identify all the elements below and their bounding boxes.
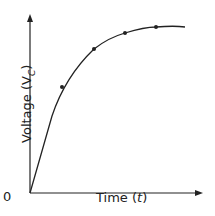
x-axis-label: Time (t) — [96, 190, 147, 205]
charging-curve — [30, 26, 185, 193]
data-point — [60, 85, 64, 89]
x-axis-arrow-icon — [195, 190, 203, 196]
data-point — [154, 25, 158, 29]
data-point — [92, 47, 96, 51]
y-axis-arrow-icon — [27, 14, 33, 22]
y-axis-label: Voltage (VC) — [19, 54, 37, 154]
data-point — [123, 31, 127, 35]
origin-label: 0 — [3, 189, 11, 204]
